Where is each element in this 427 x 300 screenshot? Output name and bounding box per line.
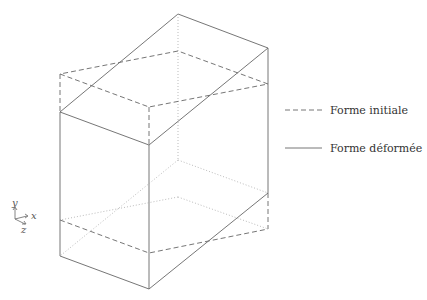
legend-deformed-label: Forme déformée [330, 142, 422, 155]
initial-top-face [60, 51, 268, 107]
legend: Forme initiale Forme déformée [285, 104, 422, 155]
legend-initial-label: Forme initiale [330, 104, 408, 117]
initial-bottom-edges [60, 220, 268, 253]
deformation-diagram: Forme initiale Forme déformée y x z [0, 0, 427, 300]
deformed-top-face [60, 14, 268, 145]
deformed-hidden-edges [60, 14, 268, 256]
deformed-shape [60, 14, 268, 289]
z-axis-label: z [20, 224, 27, 235]
y-axis-label: y [11, 197, 18, 208]
deformed-bottom-edges [60, 193, 268, 289]
x-axis-label: x [31, 210, 37, 221]
initial-hidden-edges [60, 197, 268, 229]
axis-triad [13, 207, 28, 224]
initial-shape [60, 51, 268, 253]
